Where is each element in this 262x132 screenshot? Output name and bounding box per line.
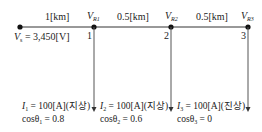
node-3-voltage-label: VR3 bbox=[241, 11, 254, 22]
source-voltage-label: Vs = 3,450[V] bbox=[14, 32, 69, 43]
node-1-voltage-label: VR1 bbox=[87, 11, 100, 22]
load-2-current: I2 = 100[A](지상) bbox=[100, 102, 168, 112]
load-1-power-factor: cosθ1 = 0.8 bbox=[22, 115, 64, 125]
node-1-number: 1 bbox=[87, 31, 92, 41]
load-3-current: I3 = 100[A](진상) bbox=[177, 102, 245, 112]
node-2-voltage-label: VR2 bbox=[165, 11, 178, 22]
segment-3-label: 0.5[km] bbox=[196, 12, 228, 22]
load-3-power-factor: cosθ3 = 0 bbox=[177, 115, 212, 125]
source-node-dot bbox=[17, 24, 22, 29]
segment-1-label: 1[km] bbox=[45, 12, 69, 22]
load-2-arrow-icon bbox=[169, 107, 174, 112]
segment-2-label: 0.5[km] bbox=[117, 12, 149, 22]
load-2-power-factor: cosθ2 = 0.6 bbox=[100, 115, 142, 125]
node-2-number: 2 bbox=[164, 31, 169, 41]
node-3-number: 3 bbox=[241, 31, 246, 41]
load-1-current: I1 = 100[A](지상) bbox=[22, 102, 90, 112]
load-1-arrow-icon bbox=[92, 107, 97, 112]
load-3-arrow-icon bbox=[246, 107, 251, 112]
